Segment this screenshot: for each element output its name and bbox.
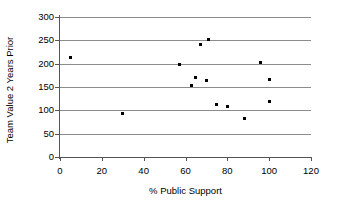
x-tick-mark <box>144 157 145 161</box>
y-tick-mark <box>55 87 59 88</box>
y-tick-mark <box>55 17 59 18</box>
y-tick-label: 50 <box>20 129 54 139</box>
y-tick-label: 300 <box>20 12 54 22</box>
y-tick-mark <box>55 64 59 65</box>
x-tick-label: 60 <box>171 166 201 176</box>
y-tick-mark <box>55 157 59 158</box>
x-tick-label: 20 <box>87 166 117 176</box>
data-point <box>268 100 271 103</box>
y-tick-mark <box>55 110 59 111</box>
x-tick-mark <box>102 157 103 161</box>
y-tick-label: 150 <box>20 82 54 92</box>
x-tick-label: 120 <box>296 166 326 176</box>
gridline <box>60 110 311 111</box>
gridline <box>60 17 311 18</box>
x-tick-mark <box>269 157 270 161</box>
gridline <box>60 64 311 65</box>
data-point <box>205 79 208 82</box>
data-point <box>69 56 72 59</box>
data-point <box>178 63 181 66</box>
y-tick-label: 0 <box>20 152 54 162</box>
data-point <box>226 105 229 108</box>
data-point <box>190 84 193 87</box>
x-tick-label: 40 <box>129 166 159 176</box>
x-tick-label: 0 <box>45 166 75 176</box>
data-point <box>121 112 124 115</box>
y-tick-label: 200 <box>20 59 54 69</box>
x-tick-mark <box>311 157 312 161</box>
x-tick-label: 100 <box>254 166 284 176</box>
data-point <box>215 103 218 106</box>
data-point <box>268 78 271 81</box>
x-tick-mark <box>60 157 61 161</box>
gridline <box>60 40 311 41</box>
x-tick-mark <box>227 157 228 161</box>
scatter-chart: Team Value 2 Years Prior % Public Suppor… <box>0 0 344 211</box>
y-tick-mark <box>55 40 59 41</box>
plot-area <box>60 17 311 157</box>
y-tick-label: 100 <box>20 105 54 115</box>
y-tick-label: 250 <box>20 35 54 45</box>
gridline <box>60 134 311 135</box>
data-point <box>194 76 197 79</box>
y-axis-title: Team Value 2 Years Prior <box>2 10 18 170</box>
gridline <box>60 87 311 88</box>
y-tick-mark <box>55 134 59 135</box>
data-point <box>199 43 202 46</box>
data-point <box>259 61 262 64</box>
data-point <box>243 117 246 120</box>
x-axis-title: % Public Support <box>60 185 311 196</box>
data-point <box>207 38 210 41</box>
x-tick-label: 80 <box>212 166 242 176</box>
x-tick-mark <box>186 157 187 161</box>
